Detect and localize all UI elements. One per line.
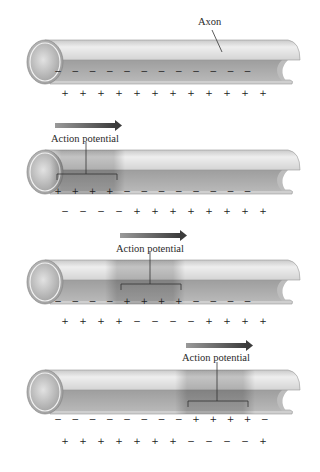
outside-charge: + (96, 88, 106, 98)
outside-charge: + (78, 88, 88, 98)
inside-charge: − (208, 186, 218, 196)
outside-charge: + (150, 88, 160, 98)
axon-panel-3 (27, 230, 300, 304)
outside-charge: + (114, 436, 124, 446)
inside-charge: + (53, 186, 63, 196)
inside-charge: − (122, 186, 132, 196)
inside-charge: − (105, 296, 115, 306)
outside-charge: − (240, 436, 250, 446)
inside-charge: − (70, 66, 80, 76)
outside-charge: + (60, 88, 70, 98)
outside-charge: + (168, 206, 178, 216)
inside-charge: − (53, 66, 63, 76)
outside-charge: + (204, 206, 214, 216)
outside-charge: + (258, 88, 268, 98)
inside-charge: − (243, 186, 253, 196)
inside-charge: − (105, 414, 115, 424)
outside-charge: + (60, 316, 70, 326)
direction-arrow (120, 233, 180, 238)
inside-charge: − (53, 296, 63, 306)
outside-charge: − (132, 316, 142, 326)
inside-charge: − (70, 414, 80, 424)
outside-charge: + (258, 206, 268, 216)
inside-charge: − (174, 414, 184, 424)
outside-charge: + (258, 436, 268, 446)
inside-charge: − (156, 186, 166, 196)
outside-charge: + (186, 206, 196, 216)
outside-charge: + (240, 206, 250, 216)
outside-charge: + (150, 436, 160, 446)
inside-charge: − (156, 414, 166, 424)
action-potential-label-3: Action potential (116, 243, 184, 254)
inside-charge: − (70, 296, 80, 306)
outside-charge: + (240, 88, 250, 98)
inside-charge: − (191, 296, 201, 306)
outside-charge: + (168, 88, 178, 98)
inside-charge: − (243, 66, 253, 76)
outside-charge: + (114, 88, 124, 98)
inside-charge: − (191, 66, 201, 76)
direction-arrow (186, 343, 246, 348)
inside-charge: − (260, 414, 270, 424)
action-potential-label-4: Action potential (182, 352, 250, 363)
outside-charge: + (186, 88, 196, 98)
inside-charge: + (105, 186, 115, 196)
inside-charge: − (191, 186, 201, 196)
outside-charge: + (96, 436, 106, 446)
inside-charge: + (191, 414, 201, 424)
action-potential-label-2: Action potential (51, 133, 119, 144)
outside-charge: + (78, 316, 88, 326)
action-potential-region (175, 370, 255, 414)
outside-charge: − (168, 316, 178, 326)
inside-charge: − (139, 66, 149, 76)
outside-charge: + (240, 316, 250, 326)
inside-charge: + (70, 186, 80, 196)
outside-charge: − (186, 436, 196, 446)
axon-panel-2 (27, 120, 300, 194)
inside-charge: − (87, 414, 97, 424)
outside-charge: + (222, 88, 232, 98)
outside-charge: − (186, 316, 196, 326)
outside-charge: − (204, 436, 214, 446)
inside-charge: − (225, 186, 235, 196)
inside-charge: + (87, 186, 97, 196)
outside-charge: + (114, 316, 124, 326)
inside-charge: − (105, 66, 115, 76)
inside-charge: + (225, 414, 235, 424)
inside-charge: − (243, 296, 253, 306)
inside-charge: − (139, 414, 149, 424)
outside-charge: + (222, 206, 232, 216)
outside-charge: + (96, 316, 106, 326)
outside-charge: + (78, 436, 88, 446)
axon-panel-4 (27, 340, 300, 414)
outside-charge: − (78, 206, 88, 216)
inside-charge: + (243, 414, 253, 424)
outside-charge: − (96, 206, 106, 216)
inside-charge: − (225, 296, 235, 306)
outside-charge: + (168, 436, 178, 446)
inside-charge: − (53, 414, 63, 424)
inside-charge: − (122, 66, 132, 76)
inside-charge: − (87, 296, 97, 306)
inside-charge: − (225, 66, 235, 76)
inside-charge: − (139, 186, 149, 196)
inside-charge: + (174, 296, 184, 306)
inside-charge: + (139, 296, 149, 306)
axon-label: Axon (198, 16, 221, 27)
inside-charge: − (174, 186, 184, 196)
outside-charge: + (132, 436, 142, 446)
inside-charge: − (156, 66, 166, 76)
inside-charge: − (208, 296, 218, 306)
outside-charge: + (132, 88, 142, 98)
outside-charge: + (204, 316, 214, 326)
direction-arrow (55, 123, 115, 128)
outside-charge: + (60, 436, 70, 446)
inside-charge: − (174, 66, 184, 76)
inside-charge: − (87, 66, 97, 76)
outside-charge: + (204, 88, 214, 98)
inside-charge: + (122, 296, 132, 306)
outside-charge: − (150, 316, 160, 326)
outside-charge: + (150, 206, 160, 216)
outside-charge: + (132, 206, 142, 216)
inside-charge: − (122, 414, 132, 424)
